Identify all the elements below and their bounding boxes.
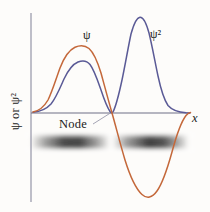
electron-density-band (25, 133, 195, 152)
wavefunction-figure: ψ or ψ² x ψ ψ² Node (0, 0, 210, 212)
psi-curve-label: ψ (83, 28, 91, 43)
node-annotation-label: Node (59, 117, 87, 132)
x-axis-label: x (192, 111, 198, 126)
psi-squared-curve-label: ψ² (150, 27, 161, 42)
plot-area (0, 0, 210, 212)
node-leader-line (93, 112, 112, 124)
psi-squared-curve (33, 17, 190, 113)
y-axis-label: ψ or ψ² (8, 80, 23, 144)
psi-curve (33, 46, 191, 197)
